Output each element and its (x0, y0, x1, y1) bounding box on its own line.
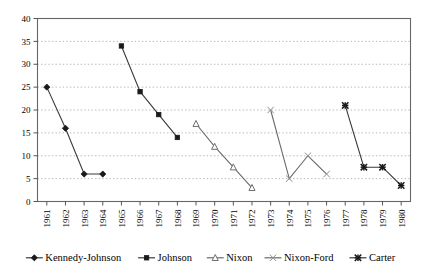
x-tick-label: 1962 (61, 210, 71, 228)
y-tick-label: 20 (22, 105, 32, 115)
legend-item-nixon-ford[interactable]: Nixon-Ford (264, 252, 334, 263)
y-tick-label: 15 (22, 128, 32, 138)
series-line (345, 105, 401, 185)
data-point-marker (361, 164, 367, 170)
data-point-marker (119, 44, 123, 48)
series-line (121, 46, 177, 138)
x-tick-label: 1973 (266, 209, 276, 228)
data-point-marker (193, 120, 199, 126)
data-point-marker (44, 84, 50, 90)
data-point-marker (62, 125, 68, 131)
y-tick-label: 30 (22, 59, 32, 69)
gridlines-group (38, 41, 411, 178)
series-nixon (193, 120, 255, 190)
series-johnson (119, 44, 179, 140)
legend-item-label: Carter (369, 252, 396, 263)
x-tick-label: 1978 (359, 209, 369, 228)
x-tick-label: 1972 (247, 210, 257, 228)
legend-item-johnson[interactable]: Johnson (138, 252, 193, 263)
data-point-marker (342, 102, 348, 108)
data-point-marker (305, 153, 311, 159)
x-tick-label: 1963 (80, 209, 90, 228)
x-axis-ticks (47, 202, 401, 206)
y-tick-label: 0 (26, 197, 31, 207)
legend-marker-icon (31, 255, 37, 261)
x-tick-label: 1975 (303, 209, 313, 228)
legend-item-carter[interactable]: Carter (349, 252, 395, 263)
y-tick-label: 25 (22, 82, 32, 92)
x-tick-label: 1966 (135, 209, 145, 228)
legend-item-kennedy-johnson[interactable]: Kennedy-Johnson (26, 252, 122, 263)
data-point-marker (398, 182, 404, 188)
x-tick-label: 1976 (322, 209, 332, 228)
legend-item-nixon[interactable]: Nixon (207, 252, 254, 263)
x-tick-label: 1968 (173, 209, 183, 228)
x-tick-label: 1967 (154, 209, 164, 228)
x-tick-label: 1979 (378, 209, 388, 228)
data-point-marker (323, 171, 329, 177)
series-line (271, 110, 327, 179)
series-nixon-ford (267, 107, 329, 182)
legend-item-label: Kennedy-Johnson (45, 252, 122, 263)
line-chart: 0510152025303540 19611962196319641965196… (0, 0, 425, 274)
y-axis-tick-labels: 0510152025303540 (22, 14, 32, 207)
data-series-group (44, 44, 405, 191)
x-tick-label: 1977 (341, 209, 351, 228)
chart-container: 0510152025303540 19611962196319641965196… (0, 0, 425, 274)
series-line (47, 87, 103, 174)
x-tick-label: 1980 (397, 209, 407, 228)
legend-item-label: Nixon-Ford (284, 252, 334, 263)
legend-item-label: Johnson (158, 252, 193, 263)
legend-marker-icon (355, 255, 361, 261)
x-tick-label: 1974 (285, 209, 295, 228)
y-tick-label: 10 (22, 151, 32, 161)
legend-item-label: Nixon (226, 252, 253, 263)
x-tick-label: 1964 (98, 209, 108, 228)
data-point-marker (157, 112, 161, 116)
data-point-marker (379, 164, 385, 170)
data-point-marker (175, 135, 179, 139)
legend-marker-icon (144, 256, 148, 260)
data-point-marker (81, 171, 87, 177)
x-tick-label: 1969 (191, 209, 201, 228)
y-axis-ticks (34, 19, 38, 202)
series-kennedy-johnson (44, 84, 106, 177)
x-tick-label: 1971 (229, 210, 239, 228)
x-axis-tick-labels: 1961196219631964196519661967196819691970… (42, 209, 406, 228)
data-point-marker (100, 171, 106, 177)
legend: Kennedy-JohnsonJohnsonNixonNixon-FordCar… (26, 252, 396, 263)
x-tick-label: 1961 (42, 210, 52, 228)
x-tick-label: 1965 (117, 209, 127, 228)
data-point-marker (138, 90, 142, 94)
series-carter (342, 102, 404, 188)
y-tick-label: 35 (22, 37, 32, 47)
y-tick-label: 40 (22, 14, 32, 24)
y-tick-label: 5 (26, 174, 31, 184)
x-tick-label: 1970 (210, 209, 220, 228)
